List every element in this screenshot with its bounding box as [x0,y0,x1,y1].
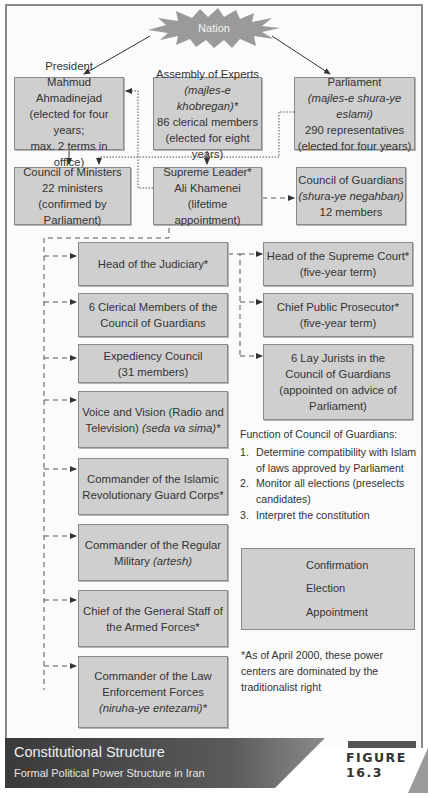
voice-and-vision-box: Voice and Vision (Radio and Television) … [78,391,228,448]
function-item: 2.Monitor all elections (preselects cand… [240,476,425,508]
law-line1: Commander of the Law [94,668,211,684]
supreme-leader-box: Supreme Leader* Ali Khamenei (lifetime a… [153,167,262,225]
parliament-members: 290 representatives [305,122,404,138]
voice-line2: Television) (seda va sima)* [86,420,221,436]
leader-name: Ali Khamenei [174,180,241,196]
legend-election: Election [242,579,414,599]
military-line1: Commander of the Regular [85,537,221,553]
law-enforcement-box: Commander of the Law Enforcement Forces … [78,656,228,728]
guardians-members: 12 members [320,204,383,220]
chief-prosecutor-box: Chief Public Prosecutor* (five-year term… [263,293,413,337]
irgc-line1: Commander of the Islamic [87,471,219,487]
prosecutor-title: Chief Public Prosecutor* [277,299,399,315]
prosecutor-term: (five-year term) [300,315,377,331]
functions-list: 1.Determine compatibility with Islam of … [240,445,425,524]
general-staff-box: Chief of the General Staff of the Armed … [78,590,228,647]
ministers-title: Council of Ministers [23,164,122,180]
irgc-line2: Revolutionary Guard Corps* [82,487,223,503]
lay-jurists-line4: Parliament) [309,398,367,414]
president-name: Mahmud Ahmadinejad [15,74,123,106]
staff-line1: Chief of the General Staff of [83,603,223,619]
corner-wedge [408,748,428,793]
legend-confirmation: Confirmation [242,556,414,576]
military-line2-text: Military [114,555,153,567]
law-line2: Enforcement Forces [102,684,204,700]
parliament-title: Parliament [328,74,382,90]
voice-persian: (seda va sima)* [142,422,220,434]
function-number: 2. [240,476,249,492]
clerical-members-box: 6 Clerical Members of the Council of Gua… [78,293,228,337]
military-line2: Military (artesh) [114,553,192,569]
assembly-members: 86 clerical members [157,114,258,130]
supreme-court-term: (five-year term) [300,264,377,280]
function-item: 1.Determine compatibility with Islam of … [240,445,425,477]
function-item: 3.Interpret the constitution [240,508,425,524]
functions-title: Function of Council of Guardians: [240,427,425,443]
council-of-ministers-box: Council of Ministers 22 ministers (confi… [14,167,131,225]
supreme-court-box: Head of the Supreme Court* (five-year te… [263,242,413,286]
function-text: Monitor all elections (preselects candid… [256,477,404,505]
council-of-guardians-box: Council of Guardians (shura-ye negahban)… [296,167,406,225]
ministers-note: (confirmed by Parliament) [15,196,130,228]
president-term: (elected for four years; [15,106,123,138]
lay-jurists-line2: Council of Guardians [285,366,391,382]
guardians-title: Council of Guardians [298,172,404,188]
function-number: 3. [240,508,249,524]
staff-line2: the Armed Forces* [106,619,200,635]
voice-line2-text: Television) [86,422,143,434]
legend-election-label: Election [306,582,345,594]
lay-jurists-line1: 6 Lay Jurists in the [291,350,385,366]
regular-military-box: Commander of the Regular Military (artes… [78,524,228,581]
assembly-term: (elected for eight years) [154,130,261,162]
expediency-members: (31 members) [118,364,188,380]
figure-bar [348,741,416,748]
parliament-persian: (majles-e shura-ye eslami) [295,90,414,122]
nation-label: Nation [148,8,280,48]
guardians-persian: (shura-ye negahban) [299,188,404,204]
judiciary-title: Head of the Judiciary* [98,256,209,272]
voice-line1: Voice and Vision (Radio and [82,404,224,420]
parliament-term: (elected for four years) [298,138,412,154]
clerical-line2: Council of Guardians [100,315,206,331]
function-text: Determine compatibility with Islam of la… [256,446,416,474]
assembly-title: Assembly of Experts [156,66,259,82]
supreme-court-title: Head of the Supreme Court* [267,248,410,264]
irgc-commander-box: Commander of the Islamic Revolutionary G… [78,458,228,515]
parliament-box: Parliament (majles-e shura-ye eslami) 29… [294,77,415,150]
legend-box: Confirmation Election Appointment [241,548,415,630]
assembly-of-experts-box: Assembly of Experts (majles-e khobregan)… [153,77,262,150]
footnote: *As of April 2000, these power centers a… [241,647,416,695]
legend-confirmation-label: Confirmation [306,559,368,571]
function-text: Interpret the constitution [256,509,370,521]
footer-subtitle: Formal Political Power Structure in Iran [14,767,205,779]
clerical-line1: 6 Clerical Members of the [89,299,218,315]
leader-term: (lifetime appointment) [154,196,261,228]
expediency-title: Expediency Council [103,348,202,364]
function-number: 1. [240,445,249,461]
leader-title: Supreme Leader* [163,164,252,180]
footer-title: Constitutional Structure [14,744,165,760]
assembly-persian: (majles-e khobregan)* [154,82,261,114]
president-title: President [45,58,93,74]
guardians-functions: Function of Council of Guardians: 1.Dete… [240,427,425,524]
president-box: President Mahmud Ahmadinejad (elected fo… [14,77,124,150]
military-persian: (artesh) [153,555,192,567]
legend-appointment: Appointment [242,603,414,623]
law-persian: (niruha-ye entezami)* [99,700,207,716]
legend-appointment-label: Appointment [306,606,368,618]
ministers-count: 22 ministers [42,180,103,196]
lay-jurists-box: 6 Lay Jurists in the Council of Guardian… [263,344,413,420]
expediency-council-box: Expediency Council (31 members) [78,344,228,383]
lay-jurists-line3: (appointed on advice of [279,382,396,398]
head-of-judiciary-box: Head of the Judiciary* [78,242,228,286]
